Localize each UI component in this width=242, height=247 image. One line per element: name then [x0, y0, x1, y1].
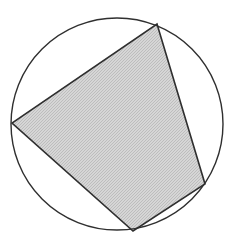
- shaded-quadrilateral: [12, 24, 205, 231]
- inscribed-quadrilateral-diagram: [0, 0, 242, 247]
